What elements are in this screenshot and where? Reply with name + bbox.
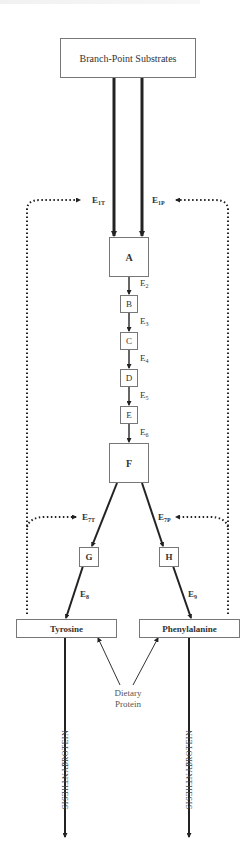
enzyme-e6: E6 (140, 427, 149, 438)
feedback-tyrosine-to-e7t (27, 517, 76, 527)
node-label: Tyrosine (50, 624, 83, 634)
node-label: G (85, 552, 92, 562)
node-b: B (120, 295, 138, 313)
node-tyrosine: Tyrosine (16, 619, 117, 638)
protein-synthesis-right-line2: SYNTHESIS (184, 762, 193, 810)
enzyme-e7p: E7P (158, 512, 171, 523)
enzyme-e2: E2 (140, 278, 149, 289)
enzyme-e1t: E1T (92, 195, 105, 206)
node-label: E (126, 410, 132, 420)
dietary-line1: Dietary (108, 688, 148, 699)
enzyme-e4: E4 (140, 353, 149, 364)
enzyme-e9: E9 (188, 589, 197, 600)
enzyme-e1p: E1P (152, 195, 165, 206)
node-d: D (120, 369, 138, 387)
dietary-protein-label: Dietary Protein (108, 688, 148, 710)
feedback-phenylalanine-to-e7p (176, 517, 228, 527)
feedback-tyrosine-to-e1t (27, 200, 80, 614)
node-a: A (109, 237, 149, 277)
node-label: A (125, 252, 132, 263)
node-h: H (159, 547, 179, 567)
feedback-phenylalanine-to-e1p (176, 200, 228, 614)
node-g: G (79, 547, 99, 567)
node-label: Branch-Point Substrates (80, 53, 177, 64)
node-branch-point-substrates: Branch-Point Substrates (60, 38, 196, 78)
node-label: H (165, 552, 172, 562)
pathway-diagram (0, 0, 252, 867)
node-phenylalanine: Phenylalanine (139, 619, 240, 638)
protein-synthesis-left-line2: SYNTHESIS (60, 762, 69, 810)
node-label: B (126, 299, 132, 309)
node-label: D (126, 373, 133, 383)
node-label: F (126, 458, 132, 469)
node-label: C (126, 336, 132, 346)
node-c: C (120, 332, 138, 350)
enzyme-e5: E5 (140, 390, 149, 401)
node-f: F (109, 443, 149, 483)
enzyme-e8: E8 (80, 589, 89, 600)
node-label: Phenylalanine (162, 624, 217, 634)
enzyme-e3: E3 (140, 316, 149, 327)
dietary-line2: Protein (108, 699, 148, 710)
node-e: E (120, 406, 138, 424)
enzyme-e7t: E7T (82, 512, 95, 523)
